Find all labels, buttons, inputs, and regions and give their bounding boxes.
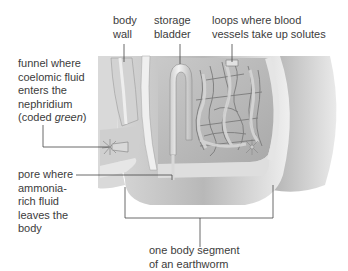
coded-suffix: ) — [83, 111, 87, 123]
label-segment-line1: one body segment — [149, 244, 240, 258]
label-storage-bladder-line1: storage — [154, 14, 191, 28]
label-body-wall: body wall — [113, 14, 137, 41]
label-pore-line3: rich fluid — [18, 195, 73, 209]
coded-green-italic: green — [55, 111, 83, 123]
label-segment-line2: of an earthworm — [149, 258, 240, 271]
label-pore-line1: pore where — [18, 168, 73, 182]
label-pore-line4: leaves the — [18, 209, 73, 223]
label-storage-bladder-line2: bladder — [154, 28, 191, 42]
label-loops-line1: loops where blood — [212, 14, 326, 28]
label-storage-bladder: storage bladder — [154, 14, 191, 41]
label-pore-line5: body — [18, 222, 73, 236]
label-funnel-line4: nephridium — [18, 98, 87, 112]
label-pore: pore where ammonia- rich fluid leaves th… — [18, 168, 73, 236]
label-loops-line2: vessels take up solutes — [212, 28, 326, 42]
label-funnel-line3: enters the — [18, 84, 87, 98]
label-body-wall-line1: body — [113, 14, 137, 28]
label-pore-line2: ammonia- — [18, 182, 73, 196]
label-funnel: funnel where coelomic fluid enters the n… — [18, 57, 87, 125]
label-funnel-line1: funnel where — [18, 57, 87, 71]
label-funnel-line5: (coded green) — [18, 111, 87, 125]
label-body-wall-line2: wall — [113, 28, 137, 42]
label-vessel-loops: loops where blood vessels take up solute… — [212, 14, 326, 41]
label-body-segment: one body segment of an earthworm — [149, 244, 240, 271]
label-funnel-line2: coelomic fluid — [18, 71, 87, 85]
coded-prefix: (coded — [18, 111, 55, 123]
